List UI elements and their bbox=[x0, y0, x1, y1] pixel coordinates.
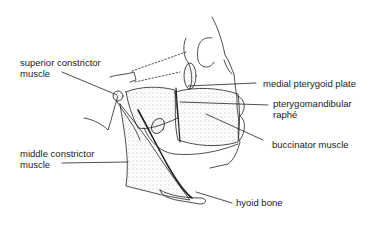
leader-hyoid-bone bbox=[196, 192, 232, 203]
label-line: muscle bbox=[20, 159, 94, 170]
label-line: buccinator muscle bbox=[272, 139, 349, 150]
label-superior-constrictor: superior constrictor muscle bbox=[20, 57, 101, 79]
label-pterygomandibular-raphe: pterygomandibular raphé bbox=[273, 98, 352, 120]
label-hyoid-bone: hyoid bone bbox=[236, 197, 282, 208]
label-line: hyoid bone bbox=[236, 197, 282, 208]
label-line: raphé bbox=[273, 109, 352, 120]
label-middle-constrictor: middle constrictor muscle bbox=[20, 148, 94, 170]
label-line: pterygomandibular bbox=[273, 98, 352, 109]
buccinator-muscle bbox=[175, 88, 240, 145]
leader-medial-pterygoid-plate bbox=[188, 83, 256, 86]
label-line: middle constrictor bbox=[20, 148, 94, 159]
lateral-pterygoid-plate bbox=[184, 63, 196, 89]
orbit-curve bbox=[198, 38, 214, 67]
styloid-process bbox=[113, 91, 123, 101]
label-buccinator: buccinator muscle bbox=[272, 139, 349, 150]
label-line: medial pterygoid plate bbox=[263, 78, 356, 89]
label-line: superior constrictor bbox=[20, 57, 101, 68]
label-medial-pterygoid-plate: medial pterygoid plate bbox=[263, 78, 356, 89]
label-line: muscle bbox=[20, 68, 101, 79]
